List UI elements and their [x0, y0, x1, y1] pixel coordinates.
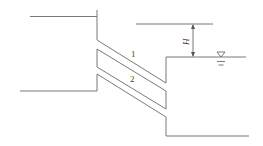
left-reservoir — [20, 10, 97, 91]
pipe-2-label: 2 — [130, 74, 135, 84]
head-dimension: H — [181, 24, 195, 57]
pipe-diagram: H 1 2 — [0, 0, 263, 146]
head-label: H — [181, 38, 191, 46]
right-reservoir — [166, 57, 249, 136]
arrow-up-icon — [191, 24, 195, 29]
pipe-1-label: 1 — [131, 49, 136, 59]
arrow-down-icon — [191, 52, 195, 57]
water-level-triangle-icon — [217, 52, 225, 65]
